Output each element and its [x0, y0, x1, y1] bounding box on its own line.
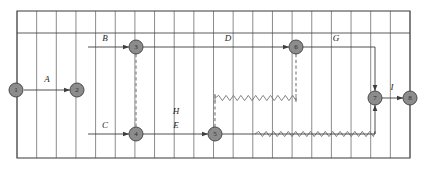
- activity-label-I: I: [390, 82, 395, 92]
- node-1[interactable]: 1: [9, 83, 23, 97]
- node-4[interactable]: 4: [129, 127, 143, 141]
- node-2[interactable]: 2: [70, 83, 84, 97]
- activity-label-D: D: [224, 33, 232, 43]
- activity-label-E: E: [172, 120, 179, 130]
- activity-arrow-H: [222, 105, 375, 134]
- node-circle[interactable]: [129, 40, 143, 54]
- node-8[interactable]: 8: [403, 91, 417, 105]
- network-canvas: ABCDEGHI 12345678: [0, 0, 426, 175]
- node-3[interactable]: 3: [129, 40, 143, 54]
- node-circle[interactable]: [9, 83, 23, 97]
- node-circle[interactable]: [129, 127, 143, 141]
- node-7[interactable]: 7: [368, 91, 382, 105]
- node-circle[interactable]: [289, 40, 303, 54]
- time-scaled-network-diagram: ABCDEGHI 12345678: [0, 0, 426, 175]
- activity-label-H: H: [172, 106, 180, 116]
- float-wavy-line: [215, 95, 296, 100]
- node-5[interactable]: 5: [208, 127, 222, 141]
- node-circle[interactable]: [70, 83, 84, 97]
- node-layer: 12345678: [9, 40, 417, 141]
- activity-label-C: C: [102, 120, 109, 130]
- node-circle[interactable]: [368, 91, 382, 105]
- activity-label-G: G: [333, 33, 340, 43]
- activity-arrow-G: [303, 47, 375, 91]
- node-circle[interactable]: [208, 127, 222, 141]
- activity-label-A: A: [43, 74, 50, 84]
- dummy-link-layer: [136, 54, 296, 127]
- activity-label-B: B: [102, 33, 108, 43]
- node-6[interactable]: 6: [289, 40, 303, 54]
- node-circle[interactable]: [403, 91, 417, 105]
